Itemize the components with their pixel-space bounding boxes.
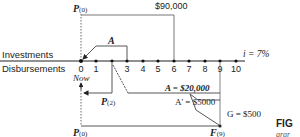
f9-dot — [218, 124, 221, 127]
now-label: Now — [72, 73, 90, 83]
period-labels: 0 1 3 4 5 6 7 8 9 10 — [78, 64, 241, 74]
svg-text:8: 8 — [202, 64, 207, 74]
a-prime-label: A' = $5000 — [175, 97, 216, 107]
gradient-g-label: G = $500 — [227, 109, 262, 119]
p0-top-label: P(0) — [73, 3, 88, 14]
f9-label: F(9) — [209, 127, 226, 137]
investments-label: Investments — [2, 49, 53, 60]
svg-text:10: 10 — [231, 64, 241, 74]
future-amount-90000-label: $90,000 — [155, 1, 188, 11]
p0-bottom-label: P(0) — [73, 127, 88, 137]
svg-text:3: 3 — [124, 64, 129, 74]
cash-flow-diagram: 0 1 3 4 5 6 7 8 9 10 Investments Disburs… — [0, 0, 300, 137]
svg-text:6: 6 — [171, 64, 176, 74]
future-amount-90000-line — [81, 15, 174, 60]
annuity-20000-label: A = $20,000 — [164, 83, 210, 93]
disbursements-label: Disbursements — [2, 63, 66, 74]
svg-text:7: 7 — [186, 64, 191, 74]
annuity-a-label: A — [107, 35, 115, 46]
interest-rate-label: i = 7% — [243, 49, 270, 59]
figure-caption-fragment: FIG — [276, 118, 293, 129]
svg-text:1: 1 — [93, 64, 98, 74]
annuity-a-bracket — [83, 46, 127, 60]
figure-caption-fragment-2: grar — [276, 130, 291, 137]
svg-text:5: 5 — [155, 64, 160, 74]
p2-label: P(2) — [101, 96, 116, 107]
svg-text:4: 4 — [140, 64, 145, 74]
